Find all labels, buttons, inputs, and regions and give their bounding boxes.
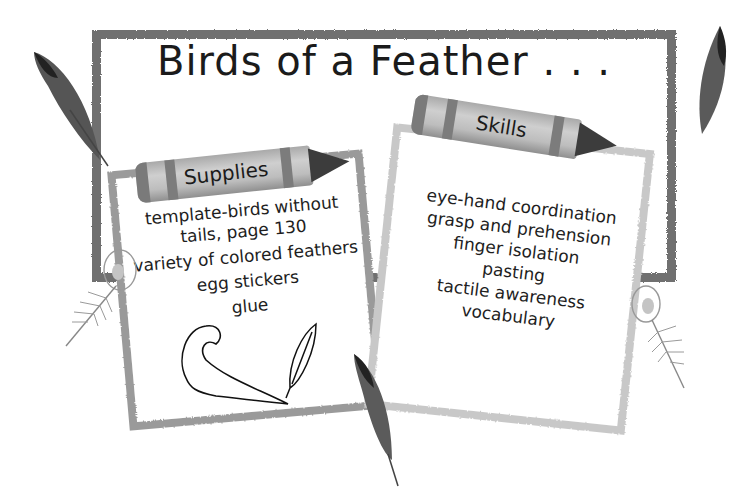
dark-feather-icon (694, 24, 734, 144)
skills-list: eye-hand coordination grasp and prehensi… (393, 182, 637, 341)
peacock-feather-icon (60, 240, 150, 350)
curled-feather-outline-icon (176, 318, 296, 408)
peacock-feather-icon (626, 282, 696, 392)
leaf-feather-outline-icon (282, 322, 322, 402)
supplies-list: template-birds without tails, page 130 v… (121, 190, 371, 331)
page-title: Birds of a Feather . . . (92, 38, 676, 84)
dark-feather-icon (30, 50, 110, 170)
dark-feather-icon (352, 350, 402, 490)
